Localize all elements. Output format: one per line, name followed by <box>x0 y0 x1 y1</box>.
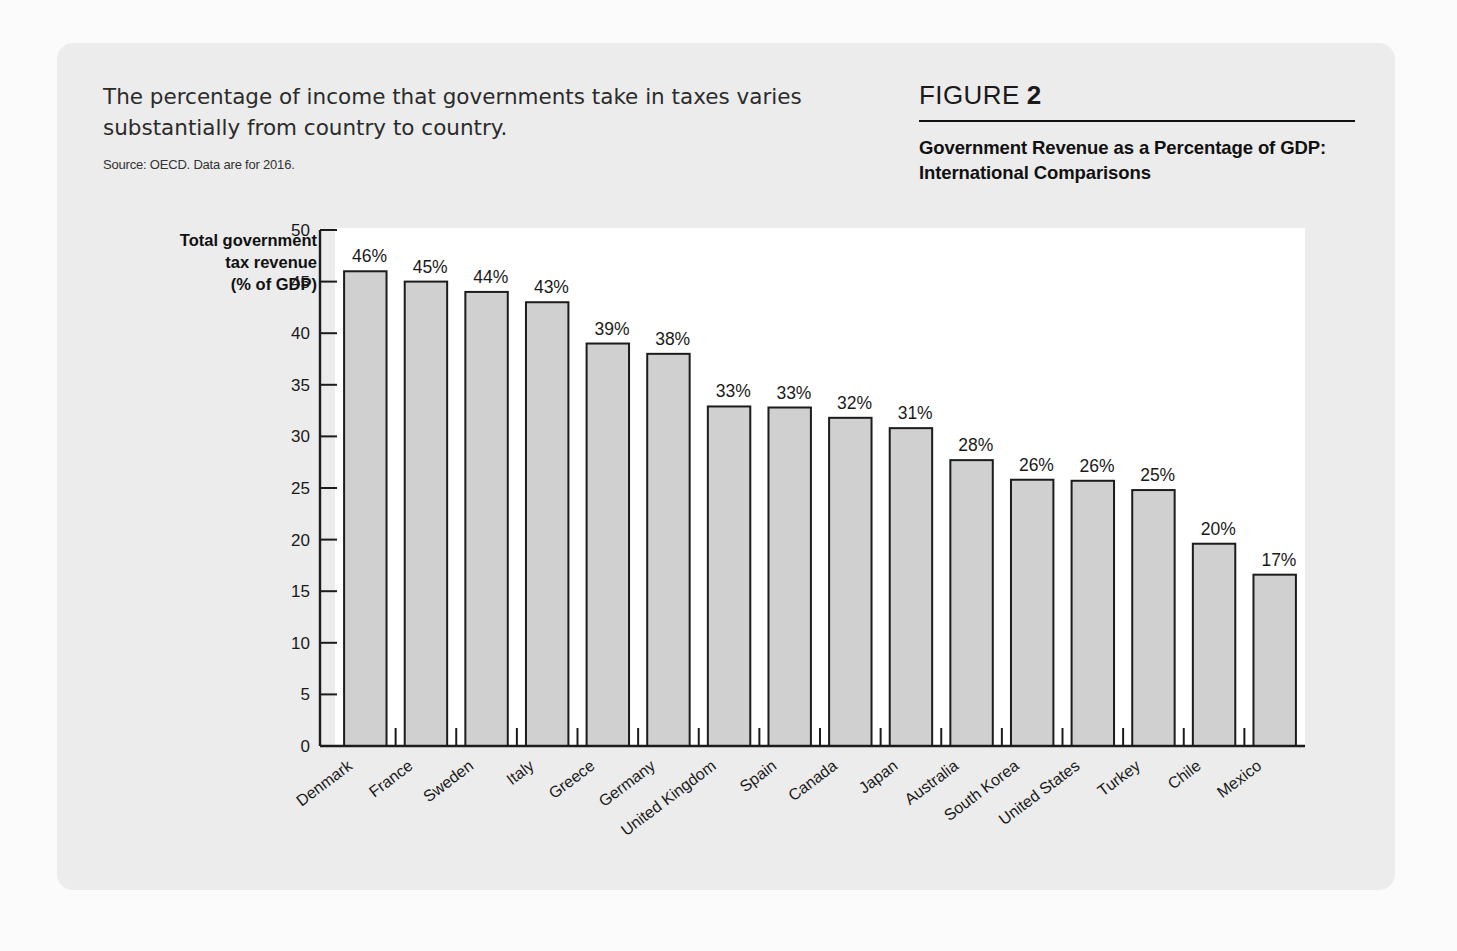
x-axis-category-labels: DenmarkFranceSwedenItalyGreeceGermanyUni… <box>293 756 1265 839</box>
x-category-label: Mexico <box>1214 757 1265 801</box>
x-category-label: Australia <box>901 757 961 808</box>
bar-value-label: 38% <box>655 329 690 349</box>
y-tick-label: 15 <box>291 582 310 601</box>
bar <box>587 344 629 746</box>
bar-value-label: 45% <box>413 257 448 277</box>
y-tick-label: 40 <box>291 324 310 343</box>
bar-value-label: 31% <box>898 403 933 423</box>
y-tick-label: 5 <box>301 685 310 704</box>
x-axis-minor-ticks <box>396 728 1245 746</box>
bar <box>1072 481 1114 746</box>
y-tick-label: 35 <box>291 376 310 395</box>
bar <box>890 428 932 746</box>
bar-value-label: 26% <box>1019 455 1054 475</box>
bar-value-label: 32% <box>837 393 872 413</box>
bar-value-label: 28% <box>958 435 993 455</box>
bar <box>1011 480 1053 746</box>
x-category-label: Chile <box>1165 757 1204 793</box>
y-tick-label: 30 <box>291 427 310 446</box>
bar <box>708 406 750 746</box>
bar-value-label: 46% <box>352 246 387 266</box>
bar <box>405 282 447 746</box>
bar-value-label: 39% <box>595 319 630 339</box>
x-category-label: Spain <box>737 757 780 795</box>
y-axis-ticks: 05101520253035404550 <box>291 221 337 756</box>
bar-value-label: 43% <box>534 277 569 297</box>
x-category-label: Canada <box>785 757 840 804</box>
x-category-label: Denmark <box>293 756 356 809</box>
bar-value-label: 20% <box>1201 519 1236 539</box>
y-tick-label: 10 <box>291 634 310 653</box>
bar <box>465 292 507 746</box>
bar <box>647 354 689 746</box>
bar-value-label: 44% <box>473 267 508 287</box>
bar <box>526 302 568 746</box>
x-category-label: Sweden <box>420 757 476 805</box>
bar <box>768 408 810 746</box>
bar <box>1132 490 1174 746</box>
chart-region: Total government tax revenue (% of GDP) … <box>57 43 1395 890</box>
x-category-label: Italy <box>503 757 537 788</box>
bar-value-label: 33% <box>716 381 751 401</box>
bar-chart-svg: 05101520253035404550 46%45%44%43%39%38%3… <box>57 43 1395 890</box>
bars-group: 46%45%44%43%39%38%33%33%32%31%28%26%26%2… <box>344 246 1296 746</box>
figure-card: The percentage of income that government… <box>57 43 1395 890</box>
y-tick-label: 45 <box>291 273 310 292</box>
bar <box>829 418 871 746</box>
bar-value-label: 33% <box>776 383 811 403</box>
bar <box>1193 544 1235 746</box>
x-category-label: Japan <box>856 757 901 797</box>
x-category-label: Turkey <box>1094 757 1143 800</box>
x-category-label: France <box>366 757 416 801</box>
bar-value-label: 25% <box>1140 465 1175 485</box>
y-tick-label: 0 <box>301 737 310 756</box>
x-category-label: Greece <box>545 757 597 802</box>
y-tick-label: 20 <box>291 531 310 550</box>
y-tick-label: 50 <box>291 221 310 240</box>
y-tick-label: 25 <box>291 479 310 498</box>
bar <box>950 460 992 746</box>
bar <box>1253 575 1295 746</box>
bar <box>344 271 386 746</box>
bar-value-label: 26% <box>1080 456 1115 476</box>
bar-value-label: 17% <box>1261 550 1296 570</box>
